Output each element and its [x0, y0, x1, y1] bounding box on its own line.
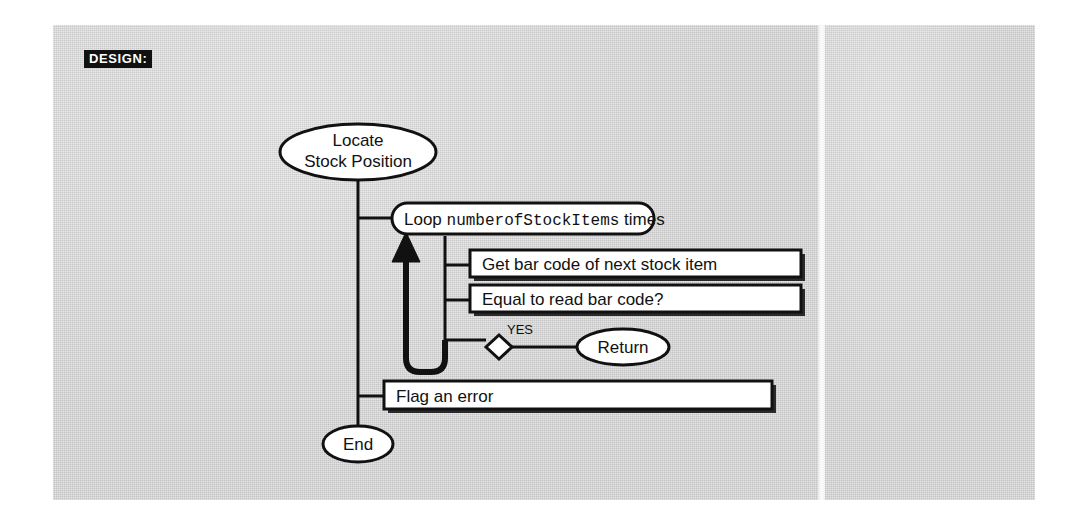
loop-keyword: Loop — [404, 210, 447, 229]
node-label-line1: Locate — [332, 131, 383, 150]
node-locate-stock-position[interactable]: Locate Stock Position — [280, 124, 436, 180]
node-label-equal: Equal to read bar code? — [482, 290, 663, 309]
edge-label-yes: YES — [507, 322, 533, 337]
node-return[interactable]: Return — [577, 329, 669, 365]
diamond-shape — [486, 335, 512, 359]
scanned-page: DESIGN: Locate Stock — [0, 0, 1083, 527]
loop-variable: numberofStockItems — [447, 212, 620, 230]
node-decision-diamond[interactable] — [486, 335, 512, 359]
node-label-return: Return — [597, 338, 648, 357]
node-label-flag: Flag an error — [396, 387, 494, 406]
node-get-bar-code[interactable]: Get bar code of next stock item — [470, 250, 805, 281]
node-label-end: End — [343, 435, 373, 454]
node-label-get: Get bar code of next stock item — [482, 255, 717, 274]
flowchart-canvas: Locate Stock Position Loop numberofStock… — [0, 0, 1083, 527]
node-loop[interactable]: Loop numberofStockItems times — [392, 203, 665, 234]
node-flag-an-error[interactable]: Flag an error — [384, 381, 776, 413]
node-label-loop: Loop numberofStockItems times — [404, 210, 665, 230]
node-label-line2: Stock Position — [304, 152, 412, 171]
loop-back-path — [406, 258, 445, 372]
node-end[interactable]: End — [323, 426, 393, 462]
loop-times-keyword: times — [619, 210, 664, 229]
node-equal-to-read-bar-code[interactable]: Equal to read bar code? — [470, 285, 805, 316]
loop-back-arrowhead — [392, 232, 420, 262]
